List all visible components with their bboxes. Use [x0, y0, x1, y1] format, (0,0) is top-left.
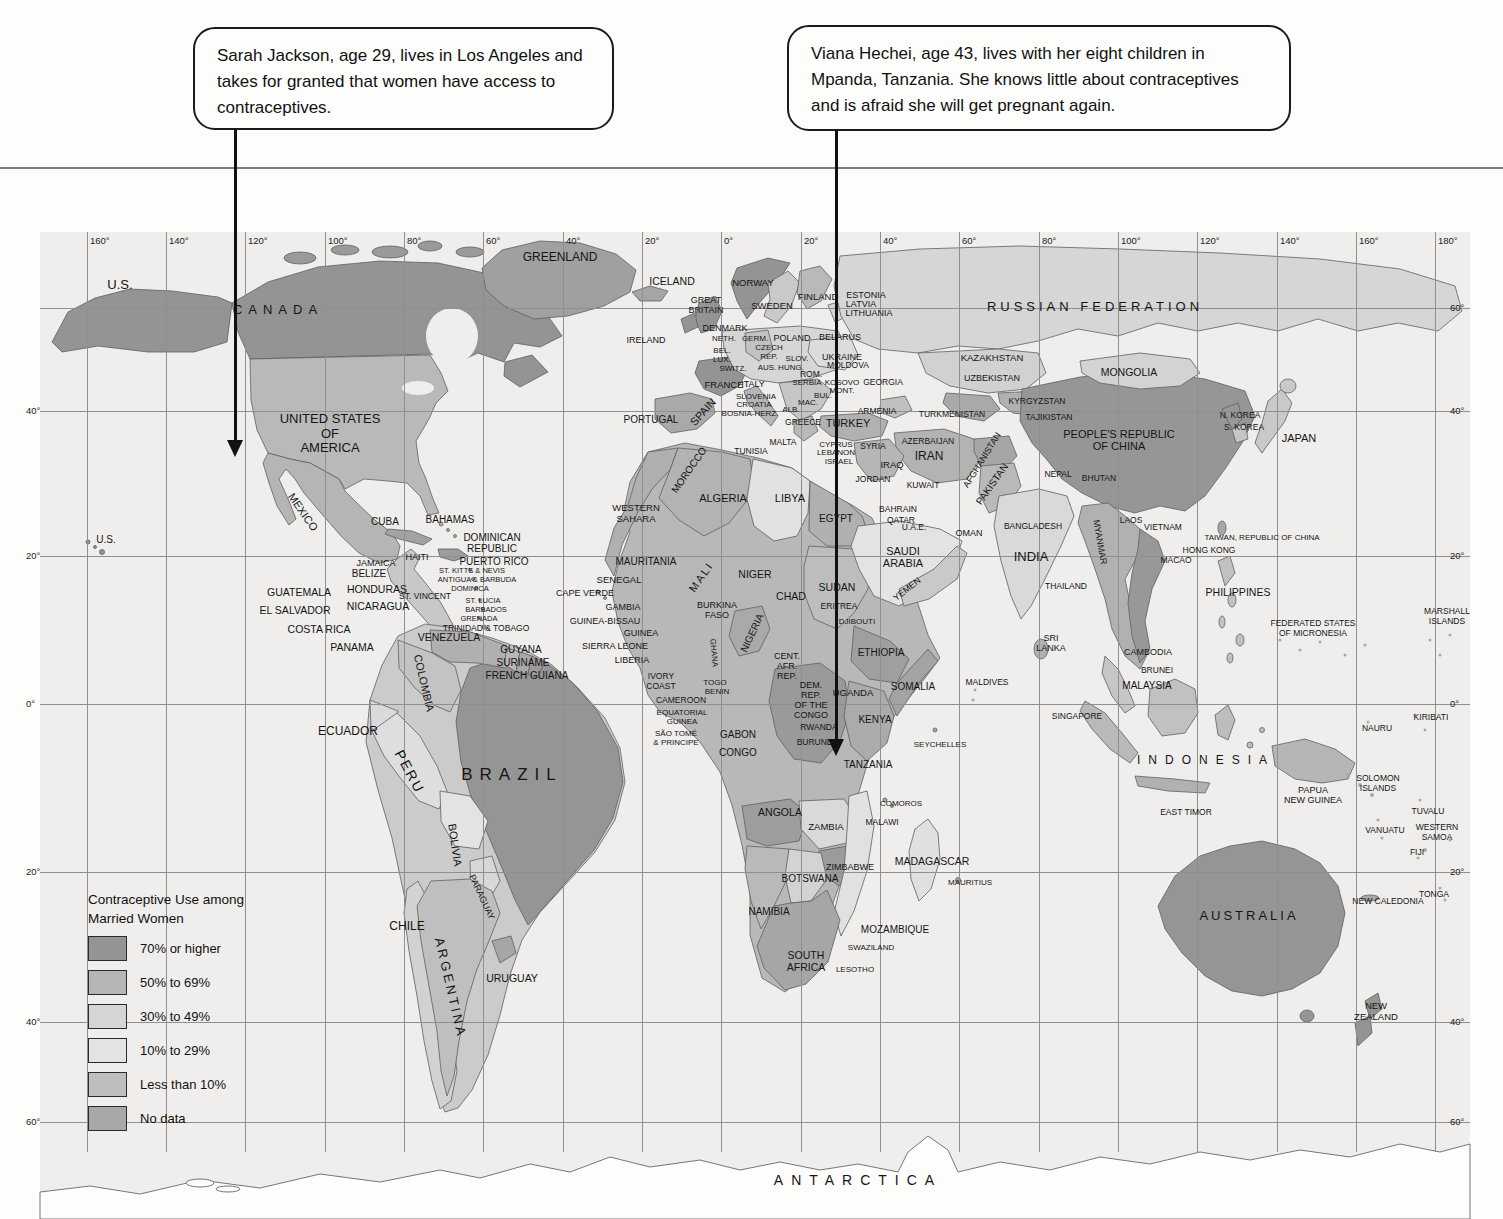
legend-item: 30% to 49%: [88, 1004, 328, 1029]
legend-item: 50% to 69%: [88, 970, 328, 995]
legend-title: Contraceptive Use among Married Women: [88, 890, 328, 928]
callout-viana-hechei: Viana Hechei, age 43, lives with her eig…: [787, 25, 1291, 131]
callout-viana-text: Viana Hechei, age 43, lives with her eig…: [811, 44, 1239, 115]
arrow-to-tanzania: [835, 130, 838, 740]
page-divider-rule: [0, 167, 1503, 169]
legend-swatch: [88, 936, 127, 961]
legend-swatch: [88, 970, 127, 995]
legend-swatch: [88, 1072, 127, 1097]
arrowhead-tanzania: [828, 739, 844, 756]
arrowhead-los-angeles: [227, 440, 243, 457]
callout-sarah-jackson: Sarah Jackson, age 29, lives in Los Ange…: [193, 27, 614, 130]
legend-label: No data: [140, 1111, 186, 1126]
legend-item: 70% or higher: [88, 936, 328, 961]
callout-sarah-text: Sarah Jackson, age 29, lives in Los Ange…: [217, 46, 583, 117]
legend-label: 10% to 29%: [140, 1043, 210, 1058]
legend-item: 10% to 29%: [88, 1038, 328, 1063]
legend-swatch: [88, 1106, 127, 1131]
legend-item: Less than 10%: [88, 1072, 328, 1097]
arrow-to-los-angeles: [234, 129, 237, 441]
legend-label: 70% or higher: [140, 941, 221, 956]
legend-swatch: [88, 1038, 127, 1063]
legend-items: 70% or higher50% to 69%30% to 49%10% to …: [88, 936, 328, 1131]
legend-label: 30% to 49%: [140, 1009, 210, 1024]
legend-swatch: [88, 1004, 127, 1029]
legend-label: Less than 10%: [140, 1077, 226, 1092]
legend-label: 50% to 69%: [140, 975, 210, 990]
legend-item: No data: [88, 1106, 328, 1131]
world-map-figure: 160°140°120°100°80°60°40°20°0°20°40°60°8…: [0, 0, 1503, 1219]
map-legend: Contraceptive Use among Married Women 70…: [88, 890, 328, 1140]
